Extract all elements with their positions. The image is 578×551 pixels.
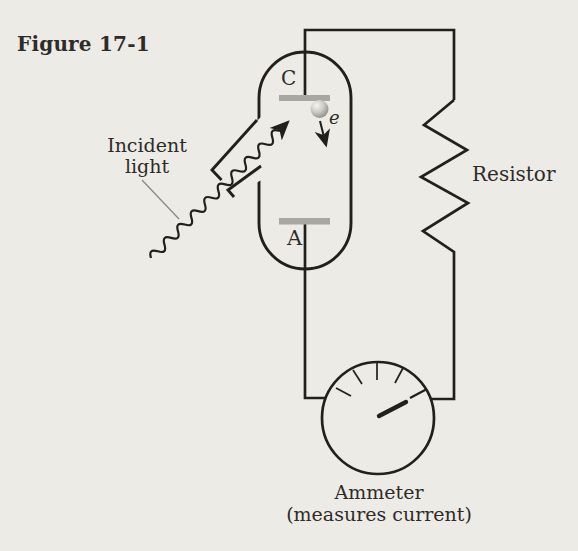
ammeter-gauge (322, 362, 434, 474)
light-pointer-line (142, 180, 179, 219)
figure-17-1-diagram: Figure 17-1 Incident light C A e Resisto… (0, 0, 578, 551)
anode-bar (279, 218, 330, 225)
anode-label: A (287, 226, 302, 250)
ammeter-label: Ammeter (measures current) (276, 482, 482, 526)
wire-top (305, 30, 454, 100)
resistor-symbol (421, 100, 468, 399)
incident-light-label: Incident light (92, 135, 202, 178)
cathode-bar (279, 95, 330, 101)
wire-bottom-left (305, 221, 327, 398)
resistor-label: Resistor (472, 162, 555, 186)
circuit-strokes (142, 30, 468, 474)
electron-arrow (320, 121, 326, 145)
cathode-label: C (281, 66, 296, 90)
electron-label: e (329, 107, 340, 128)
electron-sphere (311, 100, 329, 118)
figure-title: Figure 17-1 (17, 32, 150, 56)
